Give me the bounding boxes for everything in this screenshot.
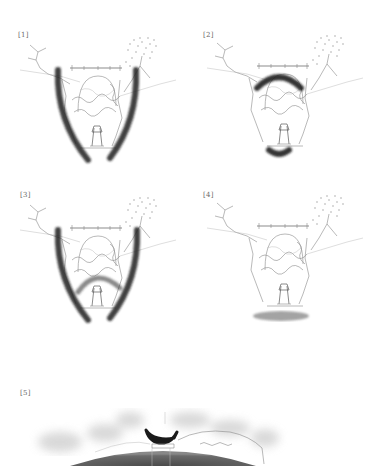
ground-shadow xyxy=(253,311,309,321)
boat-silhouette xyxy=(146,430,177,443)
sketch-illustration xyxy=(193,180,386,340)
panel-3: [2] xyxy=(193,0,386,180)
sketch-illustration xyxy=(193,0,386,180)
panel-5: [5] xyxy=(0,340,386,466)
sketch-illustration xyxy=(0,0,193,180)
sketch-illustration xyxy=(0,180,193,340)
panel-2: [3] xyxy=(0,180,193,340)
panel-1: [1] xyxy=(0,0,193,180)
v-frame-and-arch-strokes xyxy=(58,230,137,320)
panel-4: [4] xyxy=(193,180,386,340)
dome-illustration xyxy=(0,340,386,466)
dome xyxy=(70,451,256,466)
